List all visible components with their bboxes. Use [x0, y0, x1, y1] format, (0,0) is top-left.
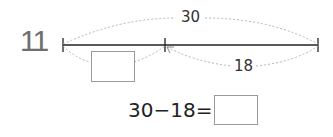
equation: 30 − 18 =: [128, 95, 258, 125]
answer-box[interactable]: [214, 95, 258, 125]
total-label: 30: [181, 8, 200, 26]
equation-right: 18: [170, 98, 195, 122]
part-label: 18: [234, 57, 253, 75]
equation-operator: −: [153, 98, 170, 122]
equation-equals: =: [196, 98, 213, 122]
unknown-arc-right: [134, 46, 165, 62]
part-arc-right: [256, 46, 318, 66]
total-arc-left: [63, 18, 175, 44]
part-arc-left: [167, 47, 232, 66]
equation-left: 30: [128, 98, 153, 122]
total-arc-right: [205, 18, 318, 44]
unknown-arc-left: [63, 46, 90, 62]
unknown-part-box[interactable]: [91, 51, 135, 82]
